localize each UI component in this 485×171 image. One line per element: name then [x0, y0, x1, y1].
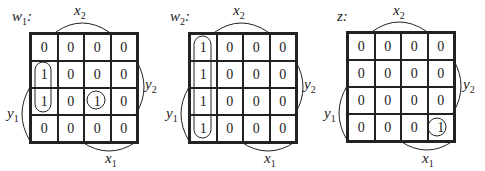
x2-bracket: [215, 23, 268, 32]
y2-bracket: [136, 60, 144, 114]
y1-bracket: [339, 86, 347, 140]
label-x1: x1: [422, 150, 434, 169]
y2-bracket: [295, 60, 303, 114]
label-x1: x1: [264, 150, 276, 169]
kmap-w2-overlay: [160, 0, 320, 171]
group-circle: [87, 91, 105, 109]
x1-bracket: [400, 141, 453, 150]
x2-bracket: [56, 23, 109, 32]
kmap-z-overlay: [320, 0, 480, 171]
group-loop: [194, 36, 211, 138]
label-x1: x1: [105, 150, 117, 169]
kmap-z: z: 0 0 0 0 0 0 0 0 0 0 0 0 0 0 0 1 x2 y2…: [320, 0, 480, 171]
y1-bracket: [181, 87, 189, 141]
group-circle: [428, 118, 446, 136]
label-y1: y1: [7, 105, 19, 124]
label-y1: y1: [166, 105, 178, 124]
x2-bracket: [373, 22, 426, 31]
kmap-w1: w1: 0 0 0 0 1 0 0 0 1 0 1 0 0 0 0 0 x2 y…: [0, 0, 160, 171]
y1-bracket: [22, 87, 30, 141]
kmap-w2: w2: 1 0 0 0 1 0 0 0 1 0 0 0 1 0 0 0 x2 y…: [160, 0, 320, 171]
label-x2: x2: [233, 2, 245, 21]
label-y2: y2: [463, 76, 475, 95]
y2-bracket: [453, 59, 461, 113]
label-x2: x2: [74, 2, 86, 21]
label-y2: y2: [145, 76, 157, 95]
group-loop: [35, 62, 51, 112]
label-x2: x2: [393, 2, 405, 21]
kmap-w1-overlay: [0, 0, 160, 171]
label-y2: y2: [304, 76, 316, 95]
label-y1: y1: [324, 105, 336, 124]
